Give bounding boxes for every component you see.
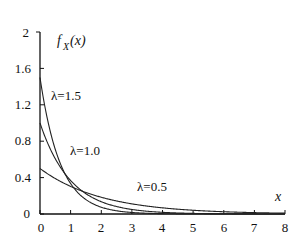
x-tick-label: 4	[159, 220, 166, 235]
x-tick-label: 2	[98, 220, 105, 235]
x-tick-label: 8	[282, 220, 289, 235]
curve-lambda-1.0	[40, 123, 285, 214]
y-tick-label: 1.6	[15, 61, 32, 76]
y-tick-labels: 0 0.4 0.8 1.2 1.6 2	[15, 25, 32, 221]
x-axis-title: x	[274, 189, 282, 204]
y-tick-label: 0.8	[15, 133, 31, 148]
y-tick-label: 1.2	[15, 97, 31, 112]
y-axis-title: f X (x)	[57, 33, 86, 52]
x-tick-label: 3	[129, 220, 136, 235]
y-tick-label: 0	[24, 206, 31, 221]
annotation-lambda-1.0: λ=1.0	[70, 143, 100, 158]
x-tick-label: 5	[190, 220, 197, 235]
x-tick-labels: 0 1 2 3 4 5 6 7 8	[38, 220, 289, 235]
y-axis-title-sub: X	[62, 41, 70, 52]
x-tick-label: 6	[221, 220, 228, 235]
annotation-lambda-1.5: λ=1.5	[51, 88, 81, 103]
x-tick-label: 7	[251, 220, 258, 235]
y-tick-label: 0.4	[15, 170, 32, 185]
y-tick-label: 2	[23, 25, 30, 40]
annotation-lambda-0.5: λ=0.5	[137, 179, 167, 194]
y-axis-title-arg: (x)	[70, 33, 86, 49]
chart-canvas: 0 0.4 0.8 1.2 1.6 2 0 1 2 3 4 5 6 7 8 f …	[0, 0, 306, 247]
x-tick-label: 0	[38, 220, 45, 235]
x-tick-label: 1	[68, 220, 75, 235]
